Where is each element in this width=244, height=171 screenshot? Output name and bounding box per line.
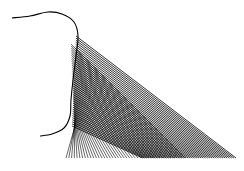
- string-art-figure: [0, 0, 244, 171]
- fan-lines: [66, 36, 236, 158]
- outline-curve: [12, 12, 78, 136]
- fan-line: [71, 44, 185, 158]
- fan-line: [75, 57, 214, 158]
